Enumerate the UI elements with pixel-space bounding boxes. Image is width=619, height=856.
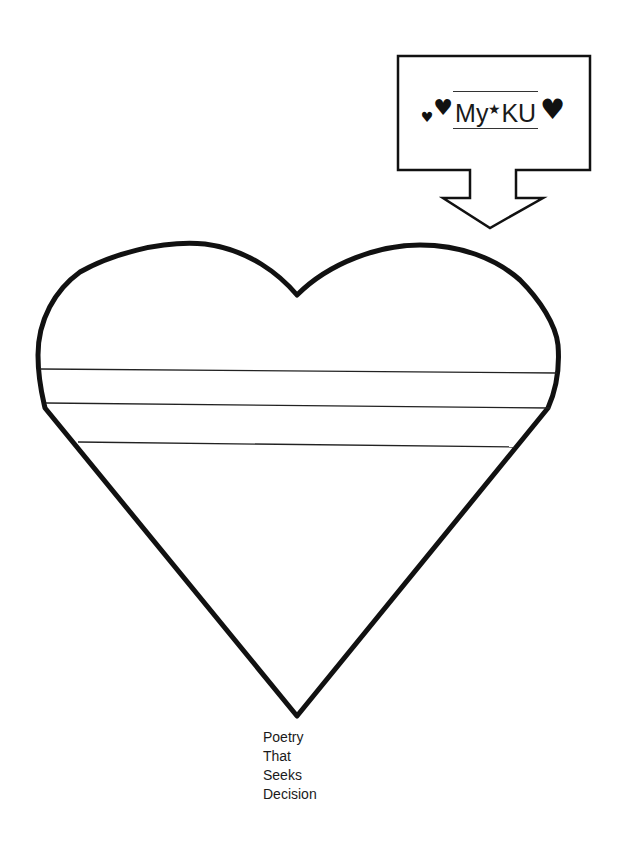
worksheet-page: ♥ ♥ My★KU ♥ Poetry That Seeks Decision: [0, 0, 619, 856]
title-prefix: My: [455, 99, 488, 127]
caption: Poetry That Seeks Decision: [263, 728, 317, 804]
star-icon: ★: [488, 101, 501, 117]
caption-line: Poetry: [263, 728, 317, 747]
caption-line: Seeks: [263, 766, 317, 785]
title-suffix: KU: [501, 99, 536, 127]
heart-icon: ♥: [433, 97, 453, 119]
title-callout: ♥ ♥ My★KU ♥: [418, 88, 568, 132]
title-callout-arrow-shape: [398, 56, 590, 228]
small-heart-icon: ♥: [421, 110, 434, 124]
caption-line: Decision: [263, 785, 317, 804]
heart-icon: ♥: [540, 96, 565, 124]
heart-outline: [38, 243, 559, 716]
caption-line: That: [263, 747, 317, 766]
title-text: My★KU: [453, 91, 538, 129]
